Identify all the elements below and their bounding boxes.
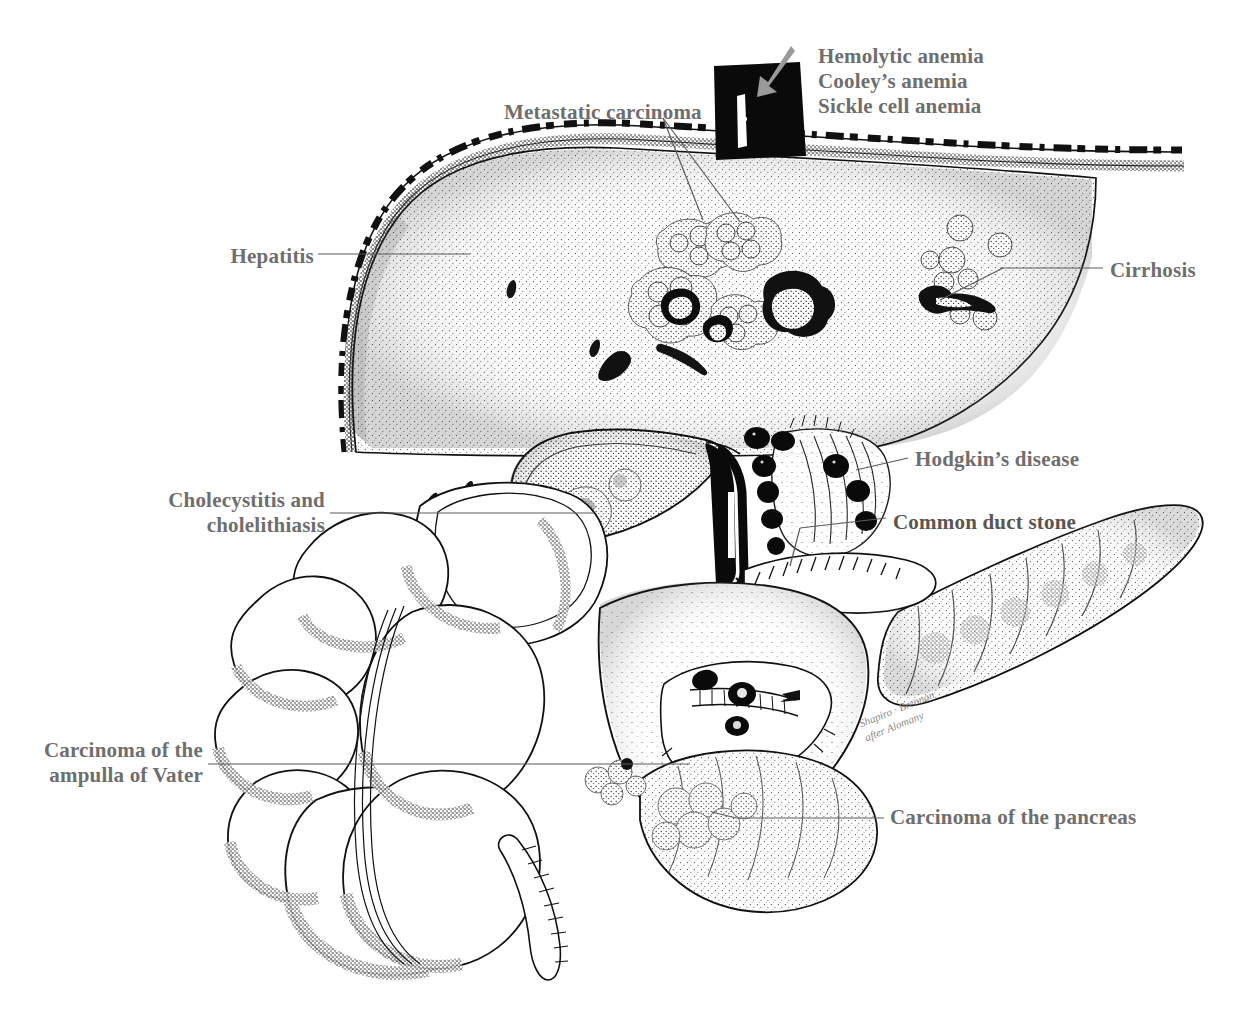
label-hodgkins-disease: Hodgkin’s disease xyxy=(915,447,1079,472)
label-cholecystitis-cholelithiasis: Cholecystitis and cholelithiasis xyxy=(55,488,325,538)
label-hepatitis: Hepatitis xyxy=(129,244,314,269)
illustration-page: Hemolytic anemia Cooley’s anemia Sickle … xyxy=(0,0,1236,1018)
label-carcinoma-of-the-pancreas: Carcinoma of the pancreas xyxy=(890,805,1136,830)
label-metastatic-carcinoma: Metastatic carcinoma xyxy=(504,100,702,125)
label-cirrhosis: Cirrhosis xyxy=(1110,258,1196,283)
label-common-duct-stone: Common duct stone xyxy=(893,510,1076,535)
label-hemolytic-anemias: Hemolytic anemia Cooley’s anemia Sickle … xyxy=(818,44,984,118)
label-carcinoma-ampulla-of-vater: Carcinoma of the ampulla of Vater xyxy=(3,738,203,788)
pancreatic-head xyxy=(585,750,877,912)
